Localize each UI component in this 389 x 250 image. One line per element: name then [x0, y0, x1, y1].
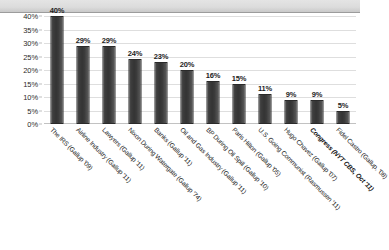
y-axis-tick-mark	[39, 110, 42, 111]
bar-value-label: 9%	[312, 90, 322, 99]
y-axis-tick-mark	[39, 29, 42, 30]
y-axis-tick-label: 35%	[23, 25, 38, 34]
bar[interactable]	[77, 46, 90, 124]
x-axis-labels: The IRS (Gallup '09)Airline Industry (Ga…	[44, 126, 356, 250]
y-axis-tick-mark	[39, 43, 42, 44]
bar[interactable]	[181, 70, 194, 124]
y-axis-tick-mark	[39, 70, 42, 71]
y-axis-tick-label: 15%	[23, 79, 38, 88]
x-axis-label: Hugo Chavez (Gallup '07)	[283, 126, 339, 182]
y-axis-tick-mark	[39, 56, 42, 57]
bar-group: 5%	[330, 16, 356, 124]
y-axis-tick-label: 0%	[27, 120, 38, 129]
bar-group: 29%	[96, 16, 122, 124]
bar[interactable]	[285, 100, 298, 124]
bar-value-label: 9%	[286, 90, 296, 99]
bar-group: 23%	[148, 16, 174, 124]
y-axis-tick-mark	[39, 83, 42, 84]
y-axis-tick-label: 20%	[23, 66, 38, 75]
bar-value-label: 40%	[50, 6, 64, 15]
bar-value-label: 29%	[102, 36, 116, 45]
bar[interactable]	[337, 111, 350, 125]
bar[interactable]	[103, 46, 116, 124]
bar-group: 9%	[278, 16, 304, 124]
bar-group: 20%	[174, 16, 200, 124]
bar-group: 9%	[304, 16, 330, 124]
bar-group: 16%	[200, 16, 226, 124]
x-axis-label: Fidel Castro (Gallup, '08)	[335, 126, 389, 180]
bar-group: 11%	[252, 16, 278, 124]
y-axis-tick-mark	[39, 16, 42, 17]
bar[interactable]	[207, 81, 220, 124]
bars-layer: 40%29%29%24%23%20%16%15%11%9%9%5%	[44, 16, 356, 124]
y-axis-tick-label: 40%	[23, 12, 38, 21]
y-axis-tick-mark	[39, 124, 42, 125]
bar-value-label: 16%	[206, 71, 220, 80]
bar-group: 24%	[122, 16, 148, 124]
bar[interactable]	[311, 100, 324, 124]
bar[interactable]	[129, 59, 142, 124]
bar[interactable]	[155, 62, 168, 124]
bar-group: 29%	[70, 16, 96, 124]
bar-value-label: 15%	[232, 74, 246, 83]
bar-value-label: 5%	[338, 101, 348, 110]
bar-value-label: 24%	[128, 49, 142, 58]
y-axis-tick-label: 10%	[23, 93, 38, 102]
y-axis: 40%35%30%25%20%15%10%5%0%	[0, 16, 42, 124]
y-axis-tick-label: 30%	[23, 39, 38, 48]
y-axis-tick-label: 25%	[23, 52, 38, 61]
bar-group: 15%	[226, 16, 252, 124]
bar-value-label: 11%	[258, 84, 272, 93]
bar-value-label: 20%	[180, 60, 194, 69]
bar-group: 40%	[44, 16, 70, 124]
y-axis-tick-mark	[39, 97, 42, 98]
bar[interactable]	[51, 16, 64, 124]
bar[interactable]	[233, 84, 246, 125]
bar-value-label: 29%	[76, 36, 90, 45]
bar-value-label: 23%	[154, 52, 168, 61]
bar[interactable]	[259, 94, 272, 124]
x-axis-label: Paris Hilton (Gallup '05)	[231, 126, 282, 177]
y-axis-tick-label: 5%	[27, 106, 38, 115]
